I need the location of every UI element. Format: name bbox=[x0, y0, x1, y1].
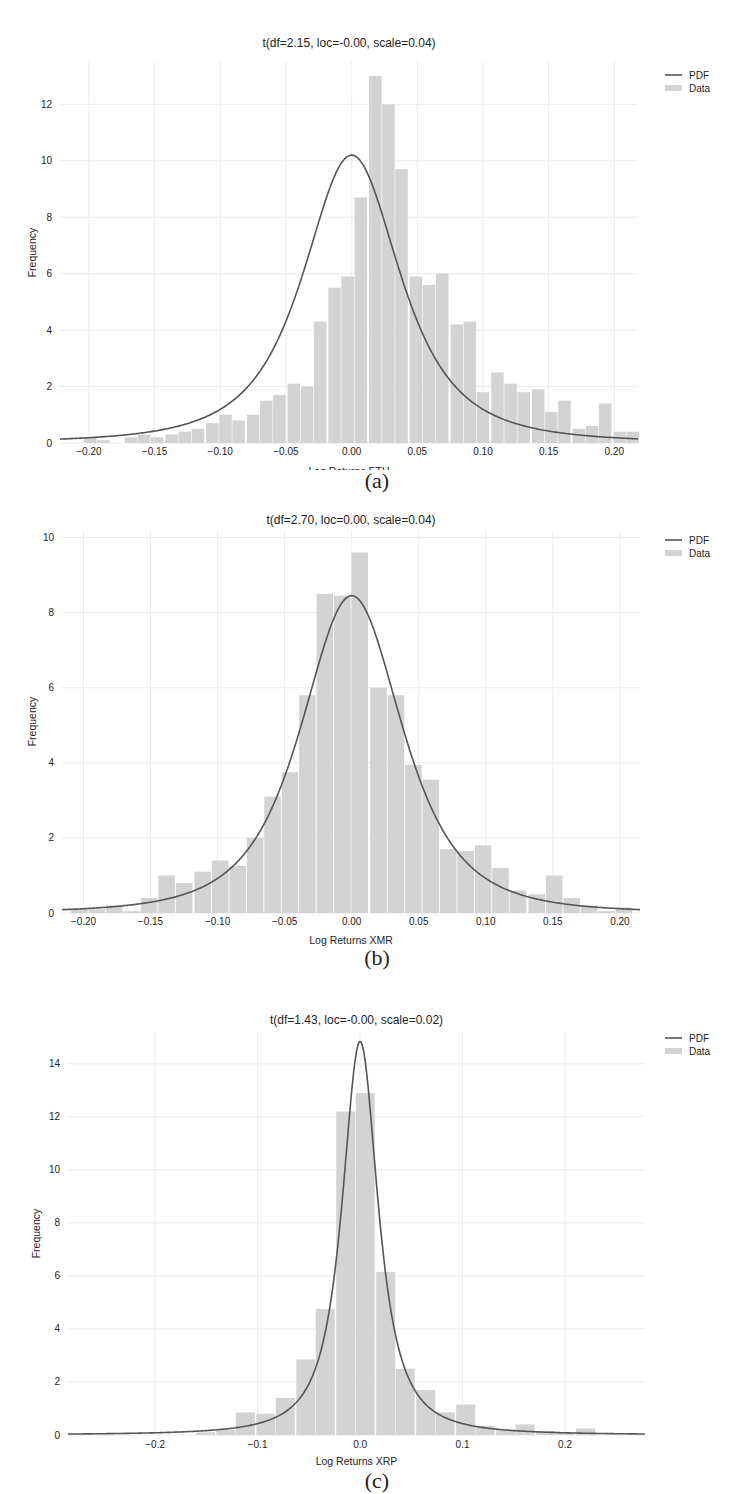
y-axis-label: Frequency bbox=[30, 1208, 42, 1258]
histogram-bar bbox=[396, 1369, 415, 1435]
x-tick-label: 0.0 bbox=[353, 1439, 367, 1450]
chart-title: t(df=1.43, loc=-0.00, scale=0.02) bbox=[270, 1013, 443, 1027]
y-tick-label: 6 bbox=[54, 1270, 60, 1281]
histogram-bar bbox=[236, 1412, 255, 1435]
legend-pdf-label: PDF bbox=[689, 1033, 709, 1044]
histogram-bar bbox=[376, 1272, 395, 1435]
histogram-bar bbox=[296, 1359, 315, 1435]
y-tick-label: 0 bbox=[54, 1430, 60, 1441]
histogram-bar bbox=[196, 1432, 215, 1435]
histogram-bar bbox=[356, 1093, 375, 1435]
histogram-bars bbox=[196, 1093, 595, 1435]
x-axis-label: Log Returns XRP bbox=[316, 1455, 398, 1467]
y-tick-label: 12 bbox=[49, 1111, 61, 1122]
caption-c: (c) bbox=[0, 1468, 754, 1494]
y-tick-label: 2 bbox=[54, 1376, 60, 1387]
x-tick-label: 0.1 bbox=[456, 1439, 470, 1450]
histogram-bar bbox=[316, 1309, 335, 1435]
y-tick-label: 8 bbox=[54, 1217, 60, 1228]
x-tick-label: 0.2 bbox=[558, 1439, 572, 1450]
y-tick-label: 10 bbox=[49, 1164, 61, 1175]
histogram-bar bbox=[256, 1414, 275, 1435]
histogram-bar bbox=[516, 1424, 535, 1435]
legend-data-label: Data bbox=[689, 1046, 711, 1057]
histogram-bar bbox=[456, 1405, 475, 1435]
histogram-bar bbox=[216, 1430, 235, 1435]
y-tick-label: 4 bbox=[54, 1323, 60, 1334]
histogram-bar bbox=[436, 1412, 455, 1435]
legend-data-swatch bbox=[665, 1048, 682, 1054]
y-tick-label: 14 bbox=[49, 1058, 61, 1069]
chart-c: −0.2−0.10.00.10.202468101214t(df=1.43, l… bbox=[30, 1013, 711, 1467]
x-tick-label: −0.2 bbox=[145, 1439, 165, 1450]
legend: PDFData bbox=[665, 1033, 711, 1058]
x-tick-label: −0.1 bbox=[248, 1439, 268, 1450]
